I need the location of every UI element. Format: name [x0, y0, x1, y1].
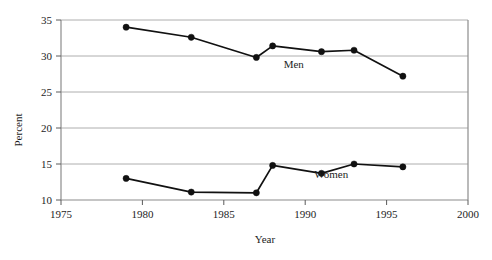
y-tick-label: 15: [41, 158, 53, 170]
x-tick-label: 1975: [50, 208, 73, 220]
x-axis-ticks: [61, 200, 468, 205]
data-point-women-1993: [351, 161, 357, 167]
data-point-women-1979: [123, 175, 129, 181]
series-label-women: Women: [314, 168, 348, 180]
data-point-men-1996: [400, 73, 406, 79]
data-point-women-1988: [270, 162, 276, 168]
series-lines: [123, 24, 406, 196]
data-point-men-1988: [270, 43, 276, 49]
data-point-men-1993: [351, 47, 357, 53]
y-tick-label: 30: [41, 50, 53, 62]
data-point-women-1987: [253, 190, 259, 196]
data-point-men-1991: [318, 49, 324, 55]
grid-lines: [61, 20, 468, 164]
y-tick-label: 20: [41, 122, 53, 134]
x-tick-label: 1995: [376, 208, 399, 220]
x-tick-label: 1990: [294, 208, 317, 220]
x-axis-title: Year: [255, 233, 276, 245]
series-line-women: [126, 164, 403, 193]
series-line-men: [126, 27, 403, 76]
data-point-women-1996: [400, 164, 406, 170]
data-point-men-1983: [188, 34, 194, 40]
y-tick-label: 35: [41, 14, 53, 26]
y-tick-label: 10: [41, 194, 53, 206]
y-axis-ticks: [56, 20, 61, 200]
series-label-men: Men: [284, 58, 305, 70]
data-point-men-1987: [253, 54, 259, 60]
data-point-women-1983: [188, 189, 194, 195]
x-tick-label: 1980: [131, 208, 154, 220]
x-tick-labels: 197519801985199019952000: [50, 208, 480, 220]
x-tick-label: 1985: [213, 208, 236, 220]
data-point-men-1979: [123, 24, 129, 30]
chart-container: 101520253035 197519801985199019952000 Me…: [0, 0, 492, 260]
y-tick-label: 25: [41, 86, 53, 98]
plot-frame: [61, 20, 468, 200]
y-axis-title: Percent: [12, 114, 24, 147]
y-tick-labels: 101520253035: [41, 14, 53, 206]
line-chart: 101520253035 197519801985199019952000 Me…: [0, 0, 492, 260]
x-tick-label: 2000: [457, 208, 480, 220]
series-annotations: MenWomen: [284, 58, 349, 180]
